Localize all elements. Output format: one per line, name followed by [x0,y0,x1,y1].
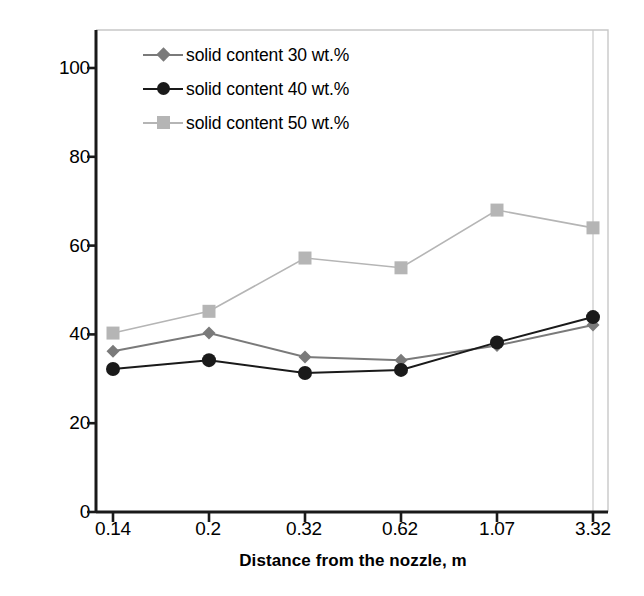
chart-legend: solid content 30 wt.% solid content 40 w… [143,45,349,133]
legend-label: solid content 50 wt.% [186,113,349,134]
legend-marker-square-icon [143,116,183,130]
legend-item-40: solid content 40 wt.% [143,79,349,99]
legend-item-50: solid content 50 wt.% [143,113,349,133]
legend-marker-diamond-icon [143,48,183,62]
legend-item-30: solid content 30 wt.% [143,45,349,65]
legend-label: solid content 40 wt.% [186,79,349,100]
legend-label: solid content 30 wt.% [186,45,349,66]
legend-marker-circle-icon [143,82,183,96]
chart-figure: Arithmetic mean diameter, µm 100 80 60 4… [0,0,644,596]
